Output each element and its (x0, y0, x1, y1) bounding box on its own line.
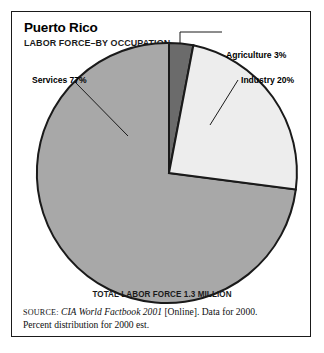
slice-label-industry: Industry 20% (241, 75, 294, 85)
slice-label-agriculture: Agriculture 3% (226, 50, 286, 60)
source-note: SOURCE: CIA World Factbook 2001 [Online]… (23, 306, 303, 332)
slice-label-services: Services 77% (32, 75, 87, 85)
source-work-title: CIA World Factbook 2001 (61, 306, 162, 317)
source-rest: [Online]. Data for 2000. (162, 306, 257, 317)
source-line-two: Percent distribution for 2000 est. (23, 319, 149, 330)
chart-caption: TOTAL LABOR FORCE 1.3 MILLION (20, 289, 305, 299)
leader-line-agriculture (180, 32, 222, 44)
source-prefix: SOURCE: (23, 308, 59, 317)
chart-frame: Puerto Rico LABOR FORCE–BY OCCUPATION Se… (11, 11, 311, 337)
